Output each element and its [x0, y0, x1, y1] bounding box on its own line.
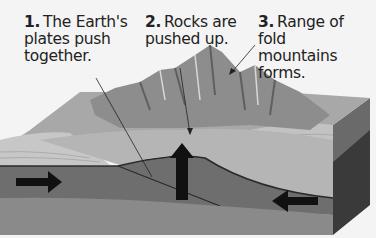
label-number: 3.: [258, 13, 274, 31]
label-plates-push: 1.The Earth's plates push together.: [24, 14, 127, 65]
label-rocks-pushed: 2.Rocks are pushed up.: [145, 14, 237, 48]
label-fold-mountains: 3.Range of fold mountains forms.: [258, 14, 376, 82]
label-number: 2.: [145, 13, 161, 31]
label-number: 1.: [24, 13, 40, 31]
